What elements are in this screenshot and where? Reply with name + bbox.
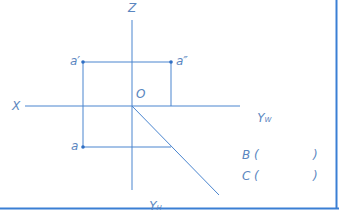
yw-subscript: W <box>265 116 272 124</box>
point-a-double-prime <box>169 60 173 64</box>
point-a-prime-label: a′ <box>70 55 80 67</box>
yh-subscript: H <box>157 204 162 211</box>
point-a-label: a <box>71 140 78 152</box>
answer-b-label: B <box>242 149 250 161</box>
answer-c-close-paren: ) <box>313 170 318 182</box>
z-axis-label: Z <box>128 2 136 14</box>
yw-main: Y <box>257 111 264 125</box>
answer-b-open-paren: ( <box>254 149 259 161</box>
answer-c-label: C <box>242 170 250 182</box>
yh-main: Y <box>149 199 156 211</box>
x-axis-label: X <box>12 100 20 112</box>
point-a-double-prime-label: a″ <box>176 55 188 67</box>
diagram-lines <box>0 0 339 211</box>
yw-axis-label: YW <box>242 100 272 138</box>
point-a <box>81 145 85 149</box>
projection-diagram: Z X O YW YH a′ a″ a B ( ) C ( ) <box>0 0 339 211</box>
point-a-prime <box>81 60 85 64</box>
yh-axis-label: YH <box>134 188 162 211</box>
answer-c-open-paren: ( <box>254 170 259 182</box>
answer-b-close-paren: ) <box>313 149 318 161</box>
origin-label: O <box>136 88 145 100</box>
diagonal-construction-line <box>132 106 219 195</box>
